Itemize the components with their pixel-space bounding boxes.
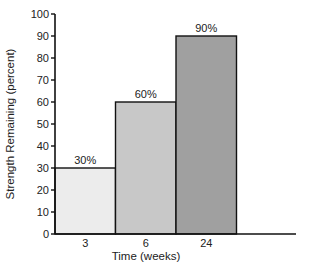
y-tick-label: 70 xyxy=(37,74,49,86)
bar-value-label: 30% xyxy=(74,154,96,166)
y-tick-label: 100 xyxy=(31,8,49,20)
bar-chart: 30%60%90% 0102030405060708090100 3624 Ti… xyxy=(0,0,313,273)
x-tick-label: 24 xyxy=(200,237,212,249)
x-tick-label: 6 xyxy=(143,237,149,249)
y-tick-label: 90 xyxy=(37,30,49,42)
bar-3 xyxy=(55,168,116,234)
bar-6 xyxy=(116,102,177,234)
x-axis-ticks: 3624 xyxy=(82,237,212,249)
x-tick-label: 3 xyxy=(82,237,88,249)
bar-24 xyxy=(176,36,237,234)
bars xyxy=(55,36,237,234)
y-axis-label: Strength Remaining (percent) xyxy=(4,48,16,199)
y-tick-label: 20 xyxy=(37,184,49,196)
bar-value-label: 60% xyxy=(135,88,157,100)
y-tick-label: 0 xyxy=(43,228,49,240)
bar-value-label: 90% xyxy=(195,22,217,34)
y-tick-label: 80 xyxy=(37,52,49,64)
y-tick-label: 40 xyxy=(37,140,49,152)
y-tick-label: 10 xyxy=(37,206,49,218)
y-axis-ticks: 0102030405060708090100 xyxy=(31,8,55,240)
y-tick-label: 60 xyxy=(37,96,49,108)
y-tick-label: 50 xyxy=(37,118,49,130)
y-tick-label: 30 xyxy=(37,162,49,174)
x-axis-label: Time (weeks) xyxy=(112,250,181,262)
